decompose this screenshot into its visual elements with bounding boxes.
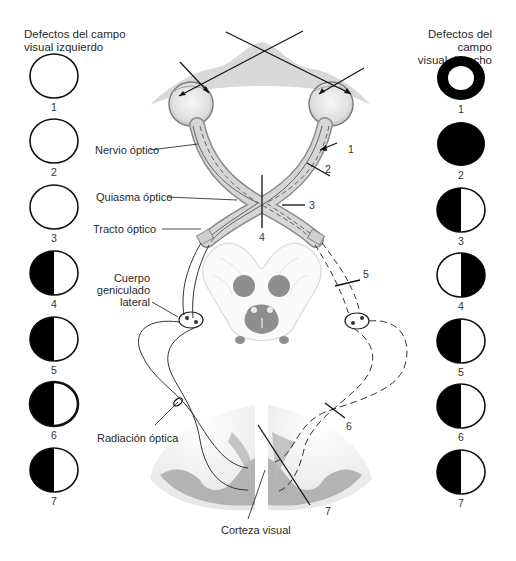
right-field-2: 2	[434, 120, 488, 181]
left-field-4: 4	[27, 249, 81, 310]
right-field-3: 3	[434, 186, 488, 247]
field-number: 1	[434, 103, 488, 115]
visual-field-blind-icon	[435, 120, 487, 168]
field-number: 6	[434, 431, 488, 443]
visual-cortex	[150, 405, 372, 510]
label-optic-tract: Tracto óptico	[93, 223, 156, 235]
visual-field-peripheral-loss-icon	[435, 54, 487, 102]
right-eye	[309, 82, 353, 126]
visual-field-left-hemianopia-icon	[28, 315, 80, 363]
label-visual-cortex: Corteza visual	[221, 524, 291, 536]
field-number: 3	[27, 232, 81, 244]
field-number: 2	[27, 166, 81, 178]
field-number: 1	[27, 101, 81, 113]
label-optic-nerve: Nervio óptico	[95, 144, 159, 156]
label-lateral-geniculate: Cuerpo geniculado lateral	[80, 272, 150, 308]
visual-field-normal-icon	[28, 183, 80, 231]
left-lgn	[179, 312, 203, 328]
lesion-number-3: 3	[309, 199, 315, 211]
field-number: 7	[27, 495, 81, 507]
right-lgn	[345, 313, 369, 329]
field-number: 7	[434, 497, 488, 509]
right-field-5: 5	[434, 317, 488, 378]
lesion-number-2: 2	[325, 163, 331, 175]
right-field-7: 7	[434, 448, 488, 509]
visual-field-normal-icon	[28, 117, 80, 165]
brainstem-section	[203, 243, 321, 344]
right-field-4: 4	[434, 251, 488, 312]
right-field-6: 6	[434, 382, 488, 443]
visual-field-right-hemianopia-icon	[435, 251, 487, 299]
left-field-5: 5	[27, 315, 81, 376]
left-field-1: 1	[27, 52, 81, 113]
visual-field-left-hemianopia-icon	[435, 186, 487, 234]
lesion-number-5: 5	[363, 268, 369, 280]
field-number: 6	[27, 429, 81, 441]
left-field-2: 2	[27, 117, 81, 178]
optic-nerves-chiasm	[197, 125, 325, 240]
lesion-number-4: 4	[259, 231, 265, 243]
label-optic-chiasm: Quiasma óptico	[96, 191, 172, 203]
lesion-number-6: 6	[346, 420, 352, 432]
visual-field-left-hemianopia-icon	[28, 249, 80, 297]
visual-field-left-hemianopia-icon	[435, 382, 487, 430]
field-number: 5	[27, 364, 81, 376]
lgn-line-1: Cuerpo	[80, 272, 150, 284]
field-number: 4	[27, 298, 81, 310]
field-number: 5	[434, 366, 488, 378]
field-number: 2	[434, 169, 488, 181]
left-field-3: 3	[27, 183, 81, 244]
lesion-number-7: 7	[325, 505, 331, 517]
left-field-7: 7	[27, 446, 81, 507]
field-number: 4	[434, 300, 488, 312]
lesion-number-1: 1	[348, 143, 354, 155]
lgn-line-2: geniculado	[80, 284, 150, 296]
visual-field-left-hemianopia-icon	[435, 317, 487, 365]
label-optic-radiation: Radiación óptica	[97, 432, 178, 444]
visual-field-left-hemianopia-icon	[28, 446, 80, 494]
field-number: 3	[434, 235, 488, 247]
lgn-line-3: lateral	[80, 296, 150, 308]
visual-field-normal-icon	[28, 52, 80, 100]
visual-field-left-hemianopia-icon	[435, 448, 487, 496]
right-field-1: 1	[434, 54, 488, 115]
left-field-6: 6	[27, 380, 81, 441]
visual-field-macular-sparing-icon	[28, 380, 80, 428]
